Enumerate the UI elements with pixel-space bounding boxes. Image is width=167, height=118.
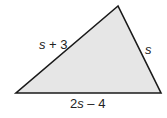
left-side-label: s + 3 [39,37,68,52]
triangle-shape [16,6,161,93]
triangle-diagram: s + 3 s 2s – 4 [0,0,167,118]
right-side-label: s [145,42,152,57]
bottom-side-label: 2s – 4 [70,96,105,111]
